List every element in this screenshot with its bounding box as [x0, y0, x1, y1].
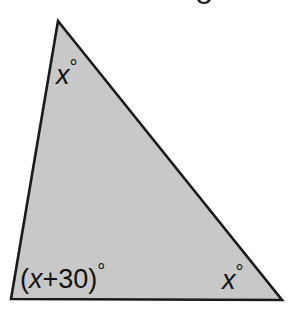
- triangle-diagram: x° (x+30)° x°: [0, 0, 297, 310]
- angle-label-bottom-left: (x+30)°: [20, 260, 105, 294]
- triangle-shape: [11, 21, 282, 300]
- cropped-title-fragment: [197, 0, 211, 4]
